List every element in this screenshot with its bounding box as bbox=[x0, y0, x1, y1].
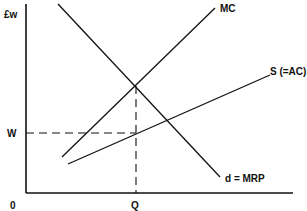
demand-label: d = MRP bbox=[225, 173, 265, 184]
monopsony-diagram: £w W 0 Q MC S (=AC) d = MRP bbox=[0, 0, 307, 211]
mc-label: MC bbox=[220, 3, 236, 14]
origin-label: 0 bbox=[10, 200, 16, 211]
supply-label: S (=AC) bbox=[270, 66, 306, 77]
quantity-label: Q bbox=[131, 200, 139, 211]
y-axis-label: £w bbox=[4, 9, 18, 20]
wage-label: W bbox=[7, 128, 17, 139]
mc-curve bbox=[62, 8, 215, 157]
supply-curve bbox=[68, 75, 270, 164]
demand-curve bbox=[58, 4, 220, 177]
